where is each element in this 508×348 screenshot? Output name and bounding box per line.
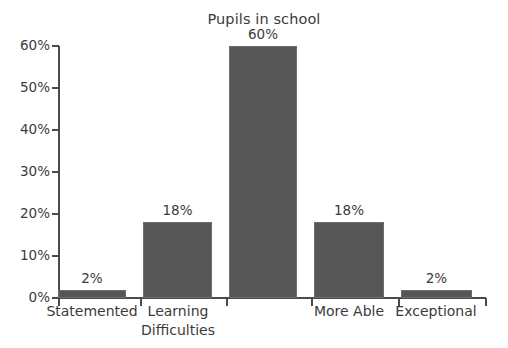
x-axis-category-label-line: Exceptional: [366, 302, 506, 321]
bar-value-label: 2%: [28, 270, 156, 286]
bar: [58, 290, 126, 298]
y-axis-tick: [52, 171, 59, 173]
x-axis-category-label: LearningDifficulties: [108, 302, 248, 340]
bar-chart: Pupils in school 0%10%20%30%40%50%60% 2%…: [0, 0, 508, 348]
y-axis-tick: [52, 213, 59, 215]
y-axis-labels: 0%10%20%30%40%50%60%: [0, 0, 50, 348]
bar: [314, 222, 384, 298]
x-axis-category-label: Exceptional: [366, 302, 506, 321]
y-axis-tick-label: 10%: [4, 247, 50, 263]
y-axis-tick-label: 30%: [4, 163, 50, 179]
y-axis-tick: [52, 87, 59, 89]
x-axis-category-label-line: Learning: [108, 302, 248, 321]
bar-value-label: 60%: [199, 26, 327, 42]
bar: [401, 290, 472, 298]
bar-value-label: 2%: [371, 270, 502, 286]
y-axis-tick: [52, 45, 59, 47]
y-axis-tick: [52, 129, 59, 131]
x-axis-category-label-line: Difficulties: [108, 321, 248, 340]
bar-value-label: 18%: [284, 202, 414, 218]
bar: [143, 222, 212, 298]
bar: [229, 46, 297, 298]
y-axis-tick-label: 20%: [4, 205, 50, 221]
y-axis-tick: [52, 255, 59, 257]
bar-value-label: 18%: [113, 202, 242, 218]
y-axis-tick-label: 50%: [4, 79, 50, 95]
y-axis-tick-label: 40%: [4, 121, 50, 137]
chart-title: Pupils in school: [0, 11, 508, 27]
y-axis-tick-label: 60%: [4, 37, 50, 53]
